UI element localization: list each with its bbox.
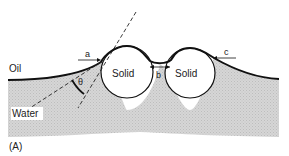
label-oil: Oil [9, 63, 21, 74]
label-c: c [224, 47, 229, 57]
panel-label: (A) [9, 141, 22, 152]
label-solid-right: Solid [175, 68, 197, 79]
label-theta: θ [78, 77, 83, 87]
label-water: Water [12, 108, 39, 119]
label-solid-left: Solid [112, 68, 134, 79]
label-b: b [156, 70, 161, 80]
label-a: a [85, 49, 90, 59]
diagram-canvas: Oil Water Solid Solid θ a b c (A) [0, 0, 289, 156]
